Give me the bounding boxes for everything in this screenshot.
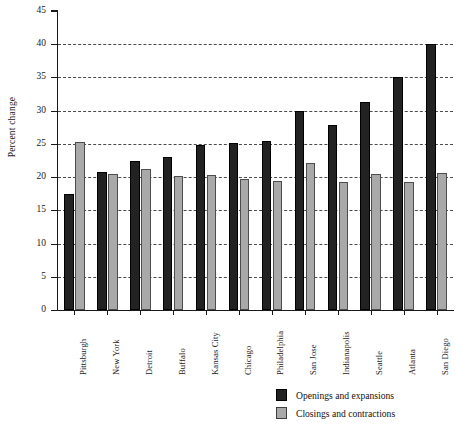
y-axis-tick-label: 35 [20,71,46,81]
x-axis-label: Detroit [144,350,154,375]
x-axis-label: Indianapolis [341,331,351,375]
bar [130,161,140,311]
y-axis-tick-label: 20 [20,171,46,181]
bar [240,179,250,310]
bar [174,176,184,310]
bar [141,169,151,310]
y-axis-tick [51,11,58,12]
x-axis-tick [107,310,108,315]
y-axis-tick [51,44,58,45]
x-axis-tick [239,310,240,315]
x-axis-label: San Jose [308,344,318,375]
y-axis-tick-label: 15 [20,204,46,214]
bar [306,163,316,310]
y-axis-tick-label: 0 [20,304,46,314]
bar [108,174,118,310]
legend: Openings and expansions Closings and con… [276,387,395,423]
y-axis-tick [51,77,58,78]
bar [393,77,403,310]
bar [262,141,272,310]
x-axis-label: San Diego [440,338,450,375]
x-axis-tick [272,310,273,315]
bar [437,173,447,310]
bar [229,143,239,310]
bar [163,157,173,310]
legend-swatch-closings [276,407,287,419]
bar [75,142,85,310]
x-axis-label: Atlanta [407,349,417,375]
x-axis-tick [404,310,405,315]
bar [371,174,381,310]
y-axis-tick [51,210,58,211]
legend-label-openings: Openings and expansions [296,390,394,401]
bar [196,145,206,310]
y-axis-tick-label: 10 [20,238,46,248]
y-axis-tick-label: 30 [20,105,46,115]
y-axis-title: Percent change [7,67,17,187]
x-axis-tick [173,310,174,315]
legend-item: Openings and expansions [276,387,395,403]
x-axis-label: Pittsburgh [78,339,88,375]
x-axis-label: Kansas City [210,332,220,375]
bar [328,125,338,310]
bar [404,182,414,310]
x-axis-label: New York [111,339,121,375]
x-axis-label: Chicago [243,346,253,375]
bar [339,182,349,310]
x-axis-tick [140,310,141,315]
x-axis-tick [338,310,339,315]
bars-layer [58,11,453,310]
x-axis-line [57,310,454,311]
bar [64,194,74,310]
x-axis-tick [371,310,372,315]
bar [426,44,436,310]
y-axis-tick-label: 25 [20,138,46,148]
bar [97,172,107,310]
x-axis-label: Buffalo [177,348,187,375]
y-axis-tick [51,310,58,311]
x-axis-label: Seattle [374,351,384,375]
x-axis-tick [437,310,438,315]
bar-chart: Percent change 051015202530354045 Pittsb… [0,0,462,425]
legend-item: Closings and contractions [276,405,395,421]
x-axis-label: Philadelphia [275,331,285,375]
y-axis-tick-label: 45 [20,5,46,15]
x-axis-tick [305,310,306,315]
bar [273,181,283,310]
y-axis-tick [51,111,58,112]
x-axis-tick [206,310,207,315]
legend-label-closings: Closings and contractions [296,408,395,419]
bar [295,111,305,310]
y-axis-tick-label: 40 [20,38,46,48]
legend-swatch-openings [276,389,287,401]
y-axis-tick [51,177,58,178]
bar [360,102,370,310]
y-axis-tick [51,244,58,245]
y-axis-tick [51,144,58,145]
x-axis-tick [74,310,75,315]
bar [207,175,217,310]
y-axis-tick [51,277,58,278]
y-axis-tick-label: 5 [20,271,46,281]
